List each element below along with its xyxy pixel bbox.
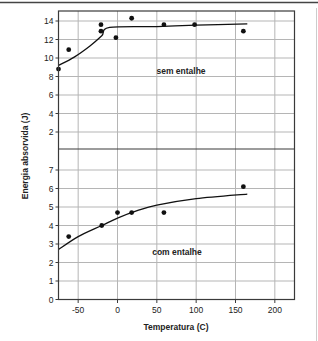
data-point (99, 223, 104, 228)
y-tick-label: 12 (44, 35, 54, 45)
x-axis-label: Temperatura (C) (143, 322, 208, 332)
y-tick-label: 4 (49, 109, 54, 119)
y-tick-label: 10 (44, 53, 54, 63)
y-tick-label: 7 (49, 165, 54, 175)
y-tick-label: 14 (44, 16, 54, 26)
data-point (129, 16, 134, 21)
data-point (129, 210, 134, 215)
y-tick-label: 8 (49, 72, 54, 82)
data-point (241, 184, 246, 189)
x-tick-label: 100 (189, 305, 203, 315)
y-tick-label: 0 (49, 295, 54, 305)
y-tick-label: 4 (49, 221, 54, 231)
data-point (162, 22, 167, 27)
data-point (99, 29, 104, 34)
x-tick-label: 50 (152, 305, 162, 315)
y-tick-label: 6 (49, 184, 54, 194)
annotation-sem-entalhe: sem entalhe (156, 66, 205, 76)
impact-energy-chart: -50050100150200246810121401234567 sem en… (0, 0, 318, 341)
data-point (66, 47, 71, 52)
y-axis-label: Energia absorvida (J) (20, 113, 30, 200)
y-tick-label: 1 (49, 276, 54, 286)
data-point (115, 210, 120, 215)
data-point (162, 210, 167, 215)
data-point (192, 22, 197, 27)
x-tick-label: 0 (115, 305, 120, 315)
fit-curve-com-entalhe (59, 194, 248, 250)
data-point (66, 234, 71, 239)
data-point (99, 22, 104, 27)
x-tick-label: -50 (72, 305, 85, 315)
x-tick-label: 200 (268, 305, 282, 315)
y-tick-label: 5 (49, 202, 54, 212)
data-point (241, 29, 246, 34)
fit-curve-sem-entalhe (59, 24, 248, 66)
y-tick-label: 6 (49, 90, 54, 100)
annotation-com-entalhe: com entalhe (152, 247, 202, 257)
axis-ticks: -50050100150200246810121401234567 (44, 16, 282, 315)
data-point (114, 35, 119, 40)
y-tick-label: 3 (49, 239, 54, 249)
y-tick-label: 2 (49, 258, 54, 268)
y-tick-label: 2 (49, 127, 54, 137)
x-tick-label: 150 (228, 305, 242, 315)
